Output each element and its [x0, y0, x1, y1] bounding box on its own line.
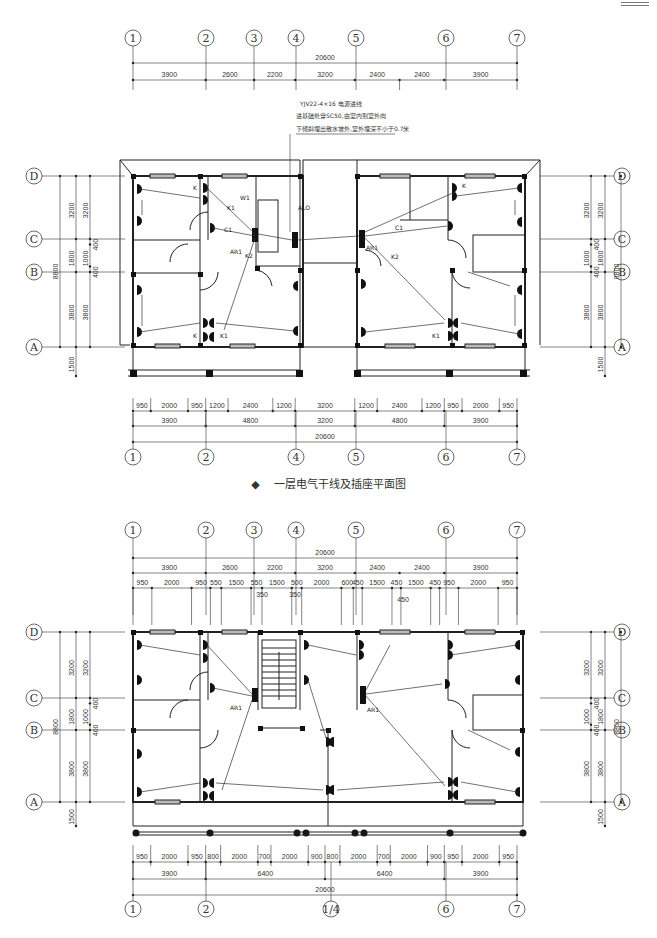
svg-text:400: 400 [593, 239, 600, 251]
electrical-floor-plans: 1234567 20600390026002200320024002400390… [0, 0, 657, 938]
svg-text:900: 900 [430, 853, 442, 860]
svg-text:C: C [30, 692, 38, 705]
svg-text:1800: 1800 [68, 251, 75, 267]
svg-text:1800: 1800 [68, 709, 75, 725]
svg-text:2000: 2000 [473, 402, 489, 409]
svg-text:1500: 1500 [597, 809, 604, 825]
svg-text:2: 2 [203, 524, 210, 537]
svg-text:6: 6 [443, 903, 450, 916]
svg-text:4: 4 [293, 451, 300, 464]
svg-text:6400: 6400 [258, 870, 274, 877]
svg-text:3200: 3200 [597, 203, 604, 219]
svg-text:1000: 1000 [82, 251, 89, 267]
svg-text:8800: 8800 [52, 264, 59, 280]
svg-text:2: 2 [203, 451, 210, 464]
svg-text:2000: 2000 [164, 579, 180, 586]
svg-text:950: 950 [443, 579, 455, 586]
svg-text:4: 4 [293, 32, 300, 45]
svg-text:1200: 1200 [209, 402, 225, 409]
svg-text:3: 3 [251, 32, 258, 45]
svg-text:3900: 3900 [473, 870, 489, 877]
svg-text:950: 950 [191, 402, 203, 409]
svg-text:1: 1 [130, 32, 137, 45]
svg-text:2: 2 [203, 32, 210, 45]
svg-text:3200: 3200 [317, 417, 333, 424]
svg-text:800: 800 [327, 853, 339, 860]
svg-text:6: 6 [443, 32, 450, 45]
svg-text:3200: 3200 [317, 402, 333, 409]
svg-text:3200: 3200 [597, 660, 604, 676]
svg-text:1500: 1500 [369, 579, 385, 586]
svg-text:350: 350 [289, 591, 301, 598]
svg-text:3: 3 [251, 524, 258, 537]
svg-text:20600: 20600 [315, 549, 335, 556]
svg-text:450: 450 [391, 579, 403, 586]
svg-text:ALO: ALO [298, 204, 310, 211]
svg-text:下倾斜埋出散水坡外,室外埋深不小于0.7米: 下倾斜埋出散水坡外,室外埋深不小于0.7米 [296, 125, 409, 133]
svg-text:1800: 1800 [597, 709, 604, 725]
plan1-cable-note: YJV22-4×16 电源进线 进基础处穿SC50,由室内到室外向 下倾斜埋出散… [290, 100, 409, 232]
svg-text:550: 550 [251, 579, 263, 586]
svg-text:950: 950 [195, 579, 207, 586]
svg-text:5: 5 [353, 524, 360, 537]
svg-text:3200: 3200 [68, 203, 75, 219]
svg-text:1500: 1500 [68, 357, 75, 373]
svg-text:3800: 3800 [597, 761, 604, 777]
svg-text:1/4: 1/4 [322, 903, 340, 916]
plan-2: 1234567 20600390026002200320024002400390… [26, 522, 630, 917]
plan-1: 1234567 20600390026002200320024002400390… [26, 30, 630, 465]
svg-text:3200: 3200 [82, 660, 89, 676]
svg-text:AR1: AR1 [230, 248, 242, 255]
svg-text:3900: 3900 [473, 417, 489, 424]
svg-text:6: 6 [443, 524, 450, 537]
svg-text:2600: 2600 [222, 564, 238, 571]
plan2-right-dimensions: DCBA880032001800380015003200400100040038… [540, 624, 630, 827]
svg-text:450: 450 [397, 596, 409, 603]
svg-text:400: 400 [593, 266, 600, 278]
svg-text:8800: 8800 [613, 719, 620, 735]
svg-text:1000: 1000 [583, 709, 590, 725]
svg-text:2400: 2400 [392, 402, 408, 409]
svg-text:4800: 4800 [392, 417, 408, 424]
svg-text:2400: 2400 [369, 71, 385, 78]
svg-text:800: 800 [207, 853, 219, 860]
svg-text:450: 450 [352, 579, 364, 586]
svg-text:3200: 3200 [583, 203, 590, 219]
svg-text:3900: 3900 [162, 71, 178, 78]
svg-text:C: C [618, 233, 626, 246]
svg-text:A: A [29, 341, 39, 354]
plan1-title-text: 一层电气干线及插座平面图 [274, 475, 406, 491]
svg-text:2000: 2000 [471, 579, 487, 586]
svg-text:20600: 20600 [315, 54, 335, 61]
plan2-bottom-dimensions: 9502000950800200070020009008002000700200… [125, 845, 525, 917]
svg-text:2000: 2000 [282, 853, 298, 860]
svg-text:3200: 3200 [317, 71, 333, 78]
svg-text:2400: 2400 [369, 564, 385, 571]
svg-text:B: B [30, 724, 38, 737]
svg-text:900: 900 [311, 853, 323, 860]
svg-text:3800: 3800 [597, 305, 604, 321]
svg-text:3900: 3900 [473, 564, 489, 571]
svg-text:6: 6 [443, 451, 450, 464]
plan1-right-unit [357, 160, 540, 376]
svg-text:C1: C1 [224, 226, 232, 233]
svg-text:2000: 2000 [401, 853, 417, 860]
svg-text:5: 5 [353, 451, 360, 464]
svg-text:K: K [462, 182, 467, 189]
svg-text:400: 400 [92, 266, 99, 278]
svg-text:2000: 2000 [473, 853, 489, 860]
plan1-title: ◆ 一层电气干线及插座平面图 [0, 475, 657, 491]
svg-text:400: 400 [92, 239, 99, 251]
svg-text:1000: 1000 [82, 709, 89, 725]
svg-text:1500: 1500 [68, 809, 75, 825]
svg-text:2000: 2000 [231, 853, 247, 860]
svg-text:700: 700 [259, 853, 271, 860]
svg-text:500: 500 [291, 579, 303, 586]
svg-text:K2: K2 [391, 253, 399, 260]
svg-text:C: C [618, 692, 626, 705]
svg-text:1500: 1500 [228, 579, 244, 586]
svg-text:3200: 3200 [68, 660, 75, 676]
svg-text:2200: 2200 [267, 564, 283, 571]
svg-text:3200: 3200 [82, 203, 89, 219]
svg-text:2000: 2000 [162, 402, 178, 409]
